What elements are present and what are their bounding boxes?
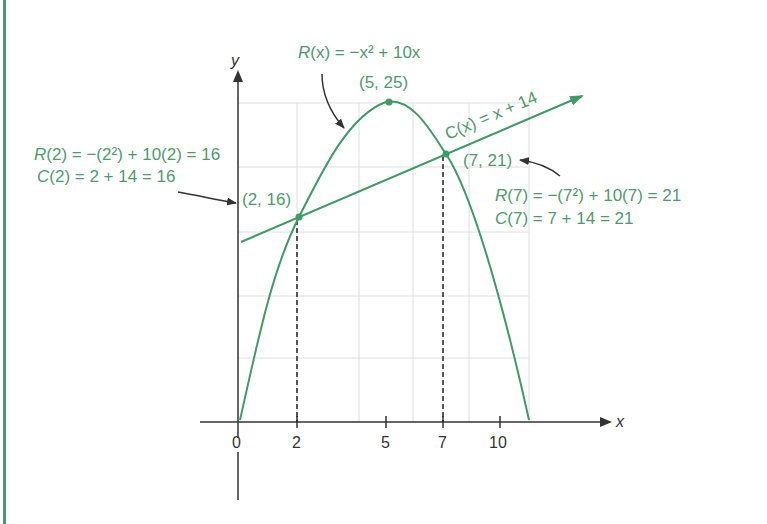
y-axis-label: y bbox=[230, 52, 240, 69]
right-revenue-calc: R(7) = −(7²) + 10(7) = 21 bbox=[495, 186, 681, 205]
break-even-chart: y x 0 2 5 7 10 (2, 16) (5, 25) (7, 21) R… bbox=[0, 0, 767, 524]
tick-2: 2 bbox=[292, 434, 301, 451]
tick-7: 7 bbox=[438, 434, 447, 451]
point-5-25 bbox=[386, 99, 393, 106]
revenue-curve bbox=[240, 101, 529, 420]
label-point-2-16: (2, 16) bbox=[242, 190, 291, 209]
arrow-left-point bbox=[178, 192, 236, 203]
arrow-right-point bbox=[520, 160, 560, 176]
point-2-16 bbox=[296, 214, 303, 221]
tick-10: 10 bbox=[489, 434, 507, 451]
arrow-revenue-label bbox=[322, 74, 344, 128]
label-point-5-25: (5, 25) bbox=[359, 73, 408, 92]
axes bbox=[200, 72, 610, 500]
x-axis-label: x bbox=[615, 413, 625, 430]
tick-5: 5 bbox=[381, 434, 390, 451]
right-cost-calc: C(7) = 7 + 14 = 21 bbox=[495, 209, 633, 228]
label-point-7-21: (7, 21) bbox=[463, 151, 512, 170]
dashed-guides bbox=[297, 156, 443, 422]
left-revenue-calc: R(2) = −(2²) + 10(2) = 16 bbox=[34, 145, 220, 164]
tick-0: 0 bbox=[232, 434, 241, 451]
revenue-function-label: R(x) = −x² + 10x bbox=[298, 43, 421, 62]
point-7-21 bbox=[443, 151, 450, 158]
left-cost-calc: C(2) = 2 + 14 = 16 bbox=[37, 167, 175, 186]
